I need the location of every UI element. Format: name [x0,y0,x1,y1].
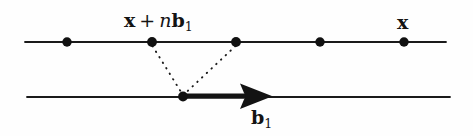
label-origin-x: x [397,13,408,32]
lattice-point-top-3 [231,37,241,47]
lattice-point-bottom-1 [178,92,188,102]
label-plus-operator: + [139,9,155,31]
label-origin-vector-x: x [397,11,408,33]
label-subscript-1: 1 [185,19,193,34]
lattice-point-top-5 [399,37,408,46]
dotted-connector-left [153,46,183,94]
lattice-point-top-2 [147,37,157,47]
label-basis-vector-b: b [251,106,264,128]
lattice-point-top-4 [315,37,324,46]
dotted-connector-right [185,46,236,94]
label-vector-x: x [124,9,135,31]
lattice-translation-figure: x+nb1 x b1 [0,0,473,136]
label-basis-subscript-1: 1 [264,116,272,131]
label-x-plus-n-b1: x+nb1 [124,11,193,33]
label-vector-b: b [172,9,185,31]
label-scalar-n: n [159,9,171,31]
lattice-point-top-1 [62,37,71,46]
label-basis-vector-b1: b1 [251,108,272,130]
